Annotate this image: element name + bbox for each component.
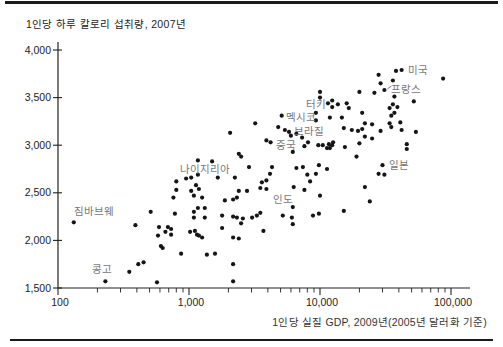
data-point [103,279,107,283]
data-point [368,199,372,203]
data-point [326,101,330,105]
data-point [340,116,344,120]
data-point [142,260,146,264]
data-point [173,212,177,216]
data-point [318,90,322,94]
data-point [412,99,416,103]
data-point [195,233,199,237]
data-point [231,279,235,283]
data-point [360,111,364,115]
data-point [281,214,285,218]
data-point [395,105,399,109]
data-point [264,187,268,191]
data-point [330,98,334,102]
data-point [389,114,393,118]
data-point [161,246,165,250]
data-point [372,91,376,95]
data-point [239,155,243,159]
chart-page: 1인당 하루 칼로리 섭취량, 2007년 1,5002,0002,5003,0… [0,0,503,347]
data-point [290,216,294,220]
data-point [391,102,395,106]
data-point [72,220,76,224]
data-point [392,111,396,115]
data-point [235,216,239,220]
scatter-plot: 1,5002,0002,5003,0003,5004,0001001,00010… [0,0,503,347]
data-point [302,144,306,148]
x-tick-label: 100 [51,296,69,308]
y-tick-label: 2,000 [25,234,51,246]
data-point [291,205,295,209]
data-point [345,101,349,105]
y-tick-label: 4,000 [25,44,51,56]
data-point [405,142,409,146]
data-point [311,214,315,218]
data-point [382,173,386,177]
data-point [400,68,404,72]
data-point [270,165,274,169]
country-label: 콩고 [92,263,112,275]
data-point [133,223,137,227]
data-point [169,233,173,237]
y-tick-label: 3,500 [25,91,51,103]
data-point [179,252,183,256]
data-point [377,172,381,176]
data-point [321,143,325,147]
data-point [391,78,395,82]
data-point [400,128,404,132]
x-tick-label: 1,000 [178,296,204,308]
data-point [318,194,322,198]
country-label: 브라질 [294,125,324,137]
data-point [342,209,346,213]
data-point [350,128,354,132]
data-point [163,230,167,234]
data-point [157,225,161,229]
data-point [405,147,409,151]
data-point [188,230,192,234]
data-point [261,229,265,233]
data-point [392,95,396,99]
data-point [316,143,320,147]
country-label: 일본 [389,159,409,171]
data-point [289,134,293,138]
data-point [356,129,360,133]
data-point [136,262,140,266]
data-point [363,135,367,139]
data-point [189,189,193,193]
data-point [280,114,284,118]
data-point [247,165,251,169]
data-point [328,116,332,120]
data-point [253,121,257,125]
data-point [394,69,398,73]
data-point [200,196,204,200]
data-point [294,166,298,170]
country-label: 터키 [306,98,326,110]
data-point [354,155,358,159]
data-point [268,172,272,176]
data-point [216,176,220,180]
data-point [233,176,237,180]
data-point [317,212,321,216]
data-point [357,90,361,94]
country-label: 중국 [276,139,296,151]
data-point [156,234,160,238]
y-tick-label: 2,500 [25,186,51,198]
country-label: 미국 [408,64,428,76]
data-point [250,216,254,220]
data-point [155,280,159,284]
data-point [301,165,305,169]
data-point [264,178,268,182]
data-point [200,235,204,239]
x-axis-title: 1인당 실질 GDP, 2009년(2005년 달러화 기준) [272,314,487,329]
data-point [196,206,200,210]
data-point [189,176,193,180]
data-point [302,188,306,192]
data-point [389,125,393,129]
data-point [308,179,312,183]
data-point [245,189,249,193]
data-point [203,216,207,220]
data-point [328,146,332,150]
data-point [317,163,321,167]
data-point [292,185,296,189]
country-label: 인도 [273,193,293,205]
data-point [264,138,268,142]
